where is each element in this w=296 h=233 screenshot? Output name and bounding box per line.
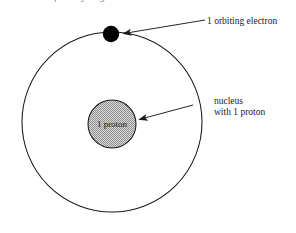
nucleus-callout-line1: nucleus (214, 96, 243, 106)
electron-dot (103, 26, 119, 42)
figure-root: Bohr model for a hydrogen atom 1 proton … (0, 0, 296, 233)
arrow-to-electron (123, 20, 205, 34)
bohr-model-diagram: 1 proton 1 orbiting electron nucleus wit… (0, 0, 296, 233)
electron-callout-label: 1 orbiting electron (207, 16, 277, 26)
arrow-to-nucleus (139, 105, 193, 120)
nucleus-callout-line2: with 1 proton (214, 107, 265, 117)
proton-label: 1 proton (97, 119, 128, 129)
